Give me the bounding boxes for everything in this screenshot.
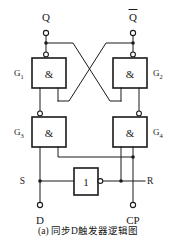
- terminal-label-q: Q: [42, 11, 50, 23]
- junction-r-top: [131, 155, 135, 159]
- circuit-schematic: & G1 & G2 & G3 & G4: [0, 0, 176, 240]
- bubble-inverter-output: [98, 179, 103, 184]
- bubble-g2-output: [131, 52, 136, 57]
- bubble-g1-output: [44, 52, 49, 57]
- terminal-label-qbar: Q: [129, 11, 137, 23]
- figure-caption: (a) 同步D触发器逻辑图: [0, 223, 176, 237]
- terminal-cp[interactable]: [130, 202, 135, 207]
- wire-g3-input-right-to-r: [58, 147, 133, 157]
- gate-g4-label: G4: [153, 127, 164, 139]
- inverter-symbol: 1: [83, 176, 89, 188]
- gate-g3-label: G3: [14, 127, 24, 139]
- gate-g3-symbol: &: [45, 127, 54, 139]
- node-label-r: R: [147, 176, 154, 186]
- logic-diagram-figure: & G1 & G2 & G3 & G4: [0, 0, 176, 240]
- terminal-d[interactable]: [37, 202, 42, 207]
- bubble-g4-output: [137, 111, 142, 116]
- node-label-s: S: [20, 176, 25, 186]
- terminal-q[interactable]: [43, 30, 48, 35]
- gate-g4-symbol: &: [126, 127, 135, 139]
- terminal-qbar[interactable]: [130, 30, 135, 35]
- gate-g1-symbol: &: [45, 68, 54, 80]
- gate-g2-symbol: &: [126, 68, 135, 80]
- gate-g1-label: G1: [14, 68, 24, 80]
- gate-g2-label: G2: [153, 68, 163, 80]
- bubble-g3-output: [38, 111, 43, 116]
